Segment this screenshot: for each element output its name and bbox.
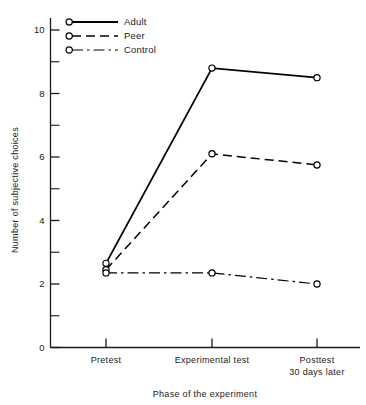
x-tick-label: Experimental test xyxy=(175,355,250,365)
x-tick-label: Posttest xyxy=(300,355,335,365)
legend-label-control: Control xyxy=(124,44,156,55)
line-chart: 0246810 PretestExperimental testPosttest… xyxy=(0,0,366,405)
x-axis-title: Phase of the experiment xyxy=(153,389,258,399)
data-point-control-2 xyxy=(314,281,320,287)
y-tick-label: 4 xyxy=(39,215,44,226)
y-tick-label: 10 xyxy=(34,24,45,35)
data-point-control-1 xyxy=(209,270,215,276)
x-tick-label: 30 days later xyxy=(289,367,344,377)
legend-marker-peer xyxy=(66,33,72,39)
y-tick-label: 8 xyxy=(39,88,44,99)
legend-marker-adult xyxy=(66,19,72,25)
data-point-adult-2 xyxy=(314,75,320,81)
data-point-adult-0 xyxy=(103,260,109,266)
legend-marker-control xyxy=(66,47,72,53)
y-tick-label: 2 xyxy=(39,278,44,289)
data-point-peer-2 xyxy=(314,162,320,168)
y-tick-label: 6 xyxy=(39,151,44,162)
legend-label-adult: Adult xyxy=(124,16,147,27)
series-group xyxy=(103,65,320,287)
x-tick-label: Pretest xyxy=(91,355,122,365)
y-tick-group: 0246810 xyxy=(34,24,60,353)
series-line-peer xyxy=(106,154,317,270)
y-axis-title: Number of subjective choices xyxy=(10,127,20,253)
legend-label-peer: Peer xyxy=(124,30,145,41)
data-point-adult-1 xyxy=(209,65,215,71)
chart-legend: AdultPeerControl xyxy=(66,16,156,55)
chart-canvas: 0246810 PretestExperimental testPosttest… xyxy=(0,0,366,405)
data-point-peer-1 xyxy=(209,151,215,157)
axis-group xyxy=(51,18,361,348)
y-tick-label: 0 xyxy=(39,342,44,353)
data-point-control-0 xyxy=(103,270,109,276)
x-tick-group: PretestExperimental testPosttest30 days … xyxy=(91,339,345,377)
